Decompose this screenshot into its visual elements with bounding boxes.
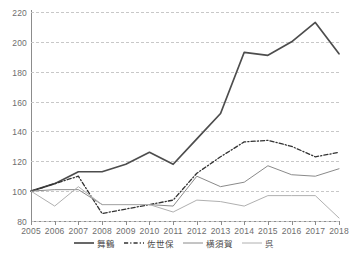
- legend-swatch-icon: [242, 239, 262, 247]
- legend-item[interactable]: 呉: [242, 237, 274, 249]
- legend-item[interactable]: 舞鶴: [74, 237, 115, 249]
- legend-label: 佐世保: [147, 237, 174, 249]
- legend-label: 横須賀: [206, 237, 233, 249]
- legend-label: 呉: [265, 237, 274, 249]
- legend-item[interactable]: 横須賀: [183, 237, 233, 249]
- legend-swatch-icon: [183, 239, 203, 247]
- legend-item[interactable]: 佐世保: [124, 237, 174, 249]
- legend: 舞鶴佐世保横須賀呉: [0, 237, 347, 249]
- legend-swatch-icon: [74, 239, 94, 247]
- legend-swatch-icon: [124, 239, 144, 247]
- legend-label: 舞鶴: [97, 237, 115, 249]
- series-line: [31, 22, 339, 191]
